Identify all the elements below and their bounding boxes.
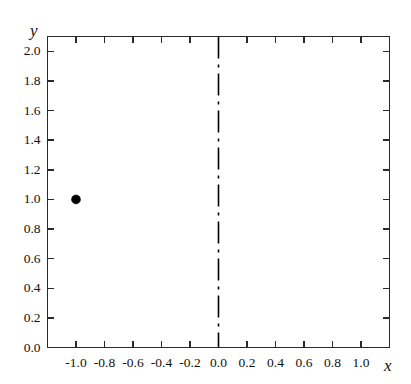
y-axis-label: y bbox=[30, 22, 38, 39]
y-tick-label: 0.6 bbox=[24, 252, 41, 266]
y-tick-label: 2.0 bbox=[24, 45, 41, 59]
y-tick-label: 1.6 bbox=[24, 104, 41, 118]
x-tick-label: 0.8 bbox=[324, 356, 341, 370]
y-tick-label: 1.2 bbox=[24, 163, 41, 177]
y-tick-label: 1.0 bbox=[24, 193, 41, 207]
data-points bbox=[72, 195, 81, 204]
y-tick-label: 0.0 bbox=[24, 341, 41, 355]
chart-figure: y x 0.00.20.40.60.81.01.21.41.61.82.0 -1… bbox=[0, 0, 411, 384]
x-tick-label: 0.2 bbox=[239, 356, 256, 370]
y-tick-label: 0.8 bbox=[24, 222, 41, 236]
x-tick-label: 0.4 bbox=[267, 356, 284, 370]
x-tick-label: 0.0 bbox=[210, 356, 227, 370]
x-tick-label: 0.6 bbox=[296, 356, 313, 370]
scatter-plot-canvas bbox=[0, 0, 411, 384]
y-tick-label: 0.2 bbox=[24, 311, 41, 325]
x-tick-label: -1.0 bbox=[65, 356, 86, 370]
x-tick-label: -0.4 bbox=[151, 356, 172, 370]
x-tick-label: -0.8 bbox=[94, 356, 115, 370]
x-tick-label: 1.0 bbox=[353, 356, 370, 370]
x-tick-label: -0.6 bbox=[122, 356, 143, 370]
y-tick-label: 1.8 bbox=[24, 74, 41, 88]
data-point-marker bbox=[72, 195, 81, 204]
y-tick-label: 1.4 bbox=[24, 133, 41, 147]
x-axis-label: x bbox=[384, 357, 392, 374]
y-tick-label: 0.4 bbox=[24, 282, 41, 296]
x-tick-label: -0.2 bbox=[179, 356, 200, 370]
